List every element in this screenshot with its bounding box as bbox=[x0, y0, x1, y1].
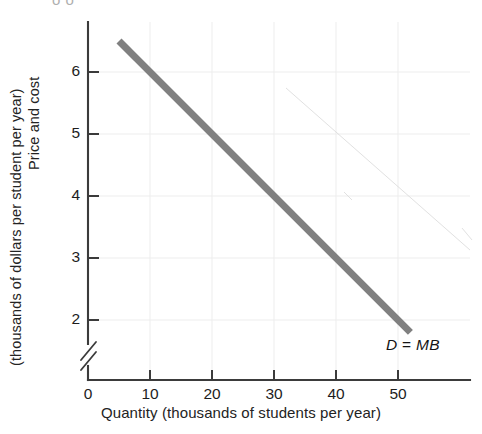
x-tick-label-30: 30 bbox=[254, 385, 294, 403]
y-tick-label-2: 2 bbox=[8, 310, 80, 328]
x-tick-label-40: 40 bbox=[316, 385, 356, 403]
x-tick-label-0: 0 bbox=[68, 385, 108, 403]
demand-curve-line bbox=[119, 41, 410, 332]
y-tick-label-3: 3 bbox=[8, 248, 80, 266]
demand-curve-label: D = MB bbox=[386, 336, 440, 354]
y-tick-label-4: 4 bbox=[8, 186, 80, 204]
scan-artifact bbox=[286, 88, 472, 250]
y-tick-marks bbox=[88, 72, 99, 320]
x-axis-title: Quantity (thousands of students per year… bbox=[0, 404, 482, 421]
x-tick-label-50: 50 bbox=[378, 385, 418, 403]
curve-label-value: MB bbox=[416, 336, 440, 353]
y-tick-label-5: 5 bbox=[8, 124, 80, 142]
x-tick-label-10: 10 bbox=[130, 385, 170, 403]
curve-label-symbol: D bbox=[386, 336, 398, 353]
x-tick-label-20: 20 bbox=[192, 385, 232, 403]
chart-figure: o o bbox=[0, 0, 482, 434]
x-tick-marks bbox=[150, 370, 398, 380]
y-tick-label-6: 6 bbox=[8, 62, 80, 80]
